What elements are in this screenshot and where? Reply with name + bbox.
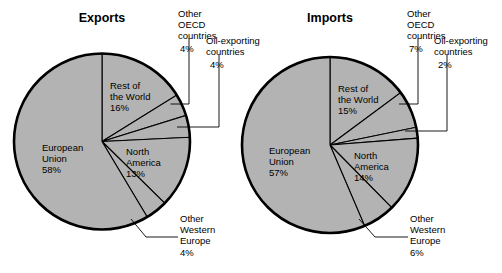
imports-eu-line2: Union [269, 156, 294, 167]
imports-owe-pct: 6% [410, 247, 424, 258]
figure-canvas: Exports Rest of the World 16% European U… [0, 0, 502, 273]
exports-oil-callout: Oil-exporting countries 4% [206, 35, 260, 70]
exports-oecd-line1: Other [178, 8, 202, 19]
exports-oil-line2: countries [206, 46, 245, 57]
exports-eu-pct: 58% [42, 164, 62, 175]
exports-owe-pct: 4% [180, 247, 194, 258]
exports-oecd-line2: OECD [178, 19, 206, 30]
imports-oecd-line2: OECD [407, 19, 435, 30]
imports-owe-line2: Western [410, 224, 445, 235]
exports-owe-line1: Other [180, 213, 204, 224]
exports-row-line2: the World [110, 91, 150, 102]
imports-oil-pct: 2% [438, 59, 452, 70]
pie-charts-figure: Exports Rest of the World 16% European U… [0, 0, 502, 273]
exports-chart: Exports Rest of the World 16% European U… [14, 8, 260, 258]
exports-owe-line2: Western [180, 224, 215, 235]
exports-oecd-pct: 4% [180, 43, 194, 54]
imports-oecd-line1: Other [407, 8, 431, 19]
exports-na-line2: America [126, 157, 162, 168]
exports-owe-line3: Europe [180, 235, 211, 246]
imports-oecd-pct: 7% [409, 43, 423, 54]
exports-owe-callout: Other Western Europe 4% [180, 213, 215, 258]
imports-na-pct: 14% [354, 172, 374, 183]
imports-row-line2: the World [338, 94, 378, 105]
imports-row-line1: Rest of [338, 83, 368, 94]
exports-eu-line1: European [42, 142, 83, 153]
exports-row-line1: Rest of [110, 80, 140, 91]
exports-title: Exports [79, 11, 126, 25]
imports-owe-line1: Other [410, 213, 434, 224]
imports-oil-line2: countries [434, 46, 473, 57]
imports-oil-callout: Oil-exporting countries 2% [434, 35, 488, 70]
exports-na-pct: 13% [126, 168, 146, 179]
imports-chart: Imports Rest of the World 15% European U… [242, 8, 488, 258]
imports-owe-line3: Europe [410, 235, 441, 246]
imports-na-line1: North [354, 150, 377, 161]
exports-eu-line2: Union [42, 153, 67, 164]
imports-eu-pct: 57% [269, 167, 289, 178]
exports-row-pct: 16% [110, 102, 130, 113]
imports-row-pct: 15% [338, 105, 358, 116]
imports-oil-line1: Oil-exporting [434, 35, 488, 46]
imports-title: Imports [307, 11, 353, 25]
imports-na-line2: America [354, 161, 390, 172]
imports-eu-line1: European [269, 145, 310, 156]
exports-oil-pct: 4% [210, 59, 224, 70]
exports-oil-line1: Oil-exporting [206, 35, 260, 46]
exports-na-line1: North [126, 146, 149, 157]
imports-owe-callout: Other Western Europe 6% [410, 213, 445, 258]
